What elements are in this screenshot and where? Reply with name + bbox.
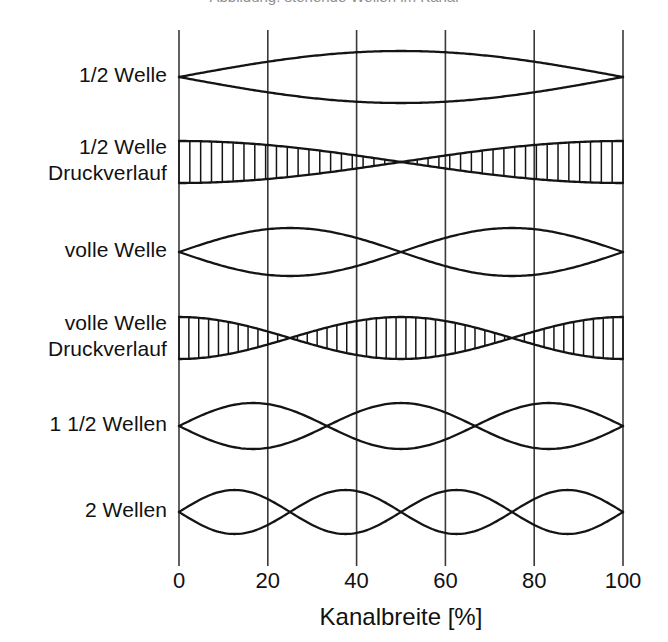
- wave-curve-6-lower: [179, 490, 623, 534]
- standing-wave-figure: Abbildung: stehende Wellen im Kanal 1/2 …: [0, 0, 668, 642]
- wave-curve-3-lower: [179, 228, 623, 276]
- wave-curve-4-lower: [179, 317, 623, 359]
- row-label-3: volle Welle: [0, 237, 167, 263]
- row-label-line1: 1/2 Welle: [0, 62, 167, 88]
- x-tick-label-80: 80: [494, 570, 574, 592]
- axis-ticks-group: [179, 556, 623, 566]
- wave-curve-1-upper: [179, 51, 623, 77]
- row-label-line2: Druckverlauf: [0, 336, 167, 362]
- row-label-1: 1/2 Welle: [0, 62, 167, 88]
- wave-row-2: [179, 141, 623, 183]
- waveform-curves-group: [179, 51, 623, 534]
- wave-row-6: [179, 490, 623, 534]
- row-label-line1: 1/2 Welle: [0, 134, 167, 160]
- wave-row-4: [179, 317, 623, 359]
- row-label-4: volle WelleDruckverlauf: [0, 310, 167, 362]
- wave-curve-5-lower: [179, 403, 623, 449]
- x-tick-label-60: 60: [405, 570, 485, 592]
- wave-row-3: [179, 228, 623, 276]
- row-label-line2: Druckverlauf: [0, 160, 167, 186]
- wave-curve-2-lower: [179, 141, 623, 183]
- row-label-line1: 2 Wellen: [0, 497, 167, 523]
- hatching-row-4: [179, 317, 623, 359]
- wave-row-1: [179, 51, 623, 103]
- row-label-2: 1/2 WelleDruckverlauf: [0, 134, 167, 186]
- x-axis-title: Kanalbreite [%]: [67, 604, 668, 630]
- x-tick-label-40: 40: [317, 570, 397, 592]
- row-label-6: 2 Wellen: [0, 497, 167, 523]
- row-label-line1: 1 1/2 Wellen: [0, 411, 167, 437]
- row-label-line1: volle Welle: [0, 310, 167, 336]
- x-tick-label-0: 0: [139, 570, 219, 592]
- wave-curve-5-upper: [179, 403, 623, 449]
- row-label-line1: volle Welle: [0, 237, 167, 263]
- wave-curve-1-lower: [179, 77, 623, 103]
- wave-row-5: [179, 403, 623, 449]
- row-label-5: 1 1/2 Wellen: [0, 411, 167, 437]
- gridlines-group: [179, 30, 623, 556]
- x-tick-label-100: 100: [583, 570, 663, 592]
- x-tick-label-20: 20: [228, 570, 308, 592]
- wave-curve-4-upper: [179, 317, 623, 359]
